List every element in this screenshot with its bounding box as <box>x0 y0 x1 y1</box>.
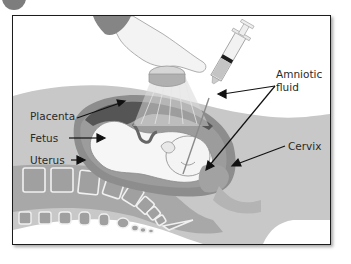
label-amniotic-fluid-line1: Amniotic <box>276 68 322 80</box>
label-amniotic-fluid-line2: fluid <box>276 81 299 93</box>
illustration-svg <box>13 16 330 244</box>
label-cervix: Cervix <box>288 140 321 152</box>
amniocentesis-illustration: Placenta Fetus Uterus Amniotic fluid Cer… <box>12 15 331 245</box>
label-uterus: Uterus <box>30 154 65 166</box>
syringe <box>204 18 256 89</box>
label-fetus: Fetus <box>30 132 58 144</box>
figure-number-marker <box>2 0 26 10</box>
label-placenta: Placenta <box>30 110 75 122</box>
ultrasound-transducer <box>149 74 185 87</box>
